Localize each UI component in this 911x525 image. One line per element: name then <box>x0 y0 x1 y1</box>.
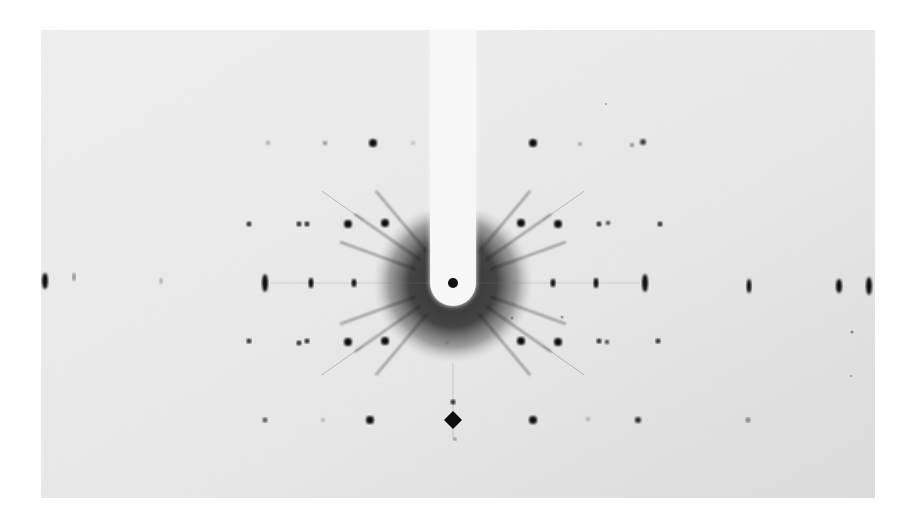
elongated-spot <box>642 274 648 292</box>
spot <box>445 341 449 345</box>
spot <box>517 219 525 227</box>
spot <box>321 418 325 422</box>
spot <box>640 139 646 145</box>
beam-stop <box>430 30 476 306</box>
spot <box>366 416 374 424</box>
spot <box>247 339 252 344</box>
elongated-spot <box>352 279 357 287</box>
elongated-spot <box>836 279 842 293</box>
spot <box>517 337 525 345</box>
diffraction-photo <box>0 0 911 525</box>
elongated-spot <box>551 279 556 287</box>
spot <box>263 418 268 423</box>
spot <box>658 222 663 227</box>
spot <box>635 417 641 423</box>
elongated-spot <box>866 277 872 295</box>
spot <box>554 338 562 346</box>
faint-spot <box>850 375 852 377</box>
spot <box>597 222 602 227</box>
spot <box>586 417 590 421</box>
spot <box>529 139 537 147</box>
spot <box>266 141 270 145</box>
elongated-spot <box>42 273 48 289</box>
beam-stop-body <box>430 30 476 306</box>
spot <box>297 341 302 346</box>
spot <box>746 418 751 423</box>
elongated-spot <box>262 274 268 292</box>
spot <box>597 339 602 344</box>
spot <box>381 219 389 227</box>
central-spot <box>448 278 458 288</box>
spot <box>606 221 610 225</box>
faint-spot <box>511 317 514 320</box>
spot <box>656 339 661 344</box>
spot <box>451 400 456 405</box>
elongated-spot <box>73 273 76 281</box>
spot <box>554 220 562 228</box>
elongated-spot <box>160 278 163 284</box>
faint-spot <box>561 316 564 319</box>
faint-spot <box>851 331 854 334</box>
spot <box>605 340 609 344</box>
spot <box>454 438 457 441</box>
elongated-spot <box>309 278 314 288</box>
spot <box>381 337 389 345</box>
spot <box>369 139 377 147</box>
spot <box>297 222 302 227</box>
spot <box>630 143 634 147</box>
faint-spot <box>605 103 607 105</box>
spot <box>247 222 252 227</box>
spot <box>344 220 352 228</box>
elongated-spot <box>594 278 599 288</box>
spot <box>305 222 310 227</box>
spot <box>344 338 352 346</box>
spot <box>411 141 415 145</box>
spot <box>529 416 537 424</box>
elongated-spot <box>747 279 752 293</box>
spot <box>323 141 327 145</box>
spot <box>578 142 582 146</box>
spot <box>305 339 310 344</box>
diffraction-figure <box>0 0 911 525</box>
